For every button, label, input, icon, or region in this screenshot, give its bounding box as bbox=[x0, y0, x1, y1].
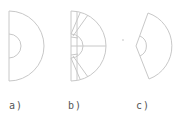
panel-c-label: c) bbox=[136, 100, 150, 111]
panel-a-label: a) bbox=[9, 100, 23, 111]
panel-a-diagram bbox=[9, 11, 44, 81]
panel-b-diagram bbox=[71, 11, 106, 81]
panel-b-label: b) bbox=[68, 100, 82, 111]
panel-c-diagram bbox=[136, 13, 172, 79]
